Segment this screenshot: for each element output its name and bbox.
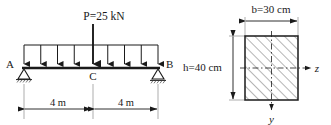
y-axis-label: y (268, 113, 274, 125)
beam-diagram: P=25 kN (6, 10, 173, 119)
point-c-label: C (89, 70, 96, 82)
height-dimension-label: h=40 cm (183, 61, 222, 73)
dimension-span-left: 4 m (25, 97, 91, 109)
support-b (150, 69, 166, 83)
distributed-load-arrows (24, 45, 158, 64)
point-load-label: P=25 kN (83, 10, 125, 22)
cross-section-diagram: b=30 cm h=40 cm z y (183, 3, 320, 125)
support-a (16, 69, 32, 83)
engineering-figure: P=25 kN (0, 0, 331, 125)
dimension-span-left-label: 4 m (50, 97, 66, 108)
support-b-label: B (166, 58, 173, 70)
dimension-span-right-label: 4 m (118, 97, 134, 108)
width-dimension-label: b=30 cm (252, 3, 291, 15)
dimension-span-right: 4 m (95, 97, 157, 109)
z-axis-label: z (314, 62, 320, 74)
support-a-label: A (6, 58, 14, 70)
dimension-extension-lines (24, 84, 158, 119)
